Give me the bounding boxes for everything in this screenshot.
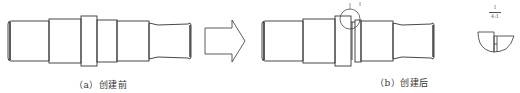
detail-circle-label: I xyxy=(359,1,361,7)
detail-view-scale: 4:1 xyxy=(489,12,501,19)
detail-view-label: I xyxy=(489,4,501,10)
shaft-after xyxy=(262,3,434,66)
transform-arrow-icon xyxy=(205,20,245,62)
shaft-before xyxy=(8,16,191,66)
detail-circle xyxy=(340,9,360,29)
detail-view xyxy=(478,32,514,52)
caption-after: （b）创建后 xyxy=(375,76,429,89)
caption-before: （a）创建前 xyxy=(74,78,127,91)
